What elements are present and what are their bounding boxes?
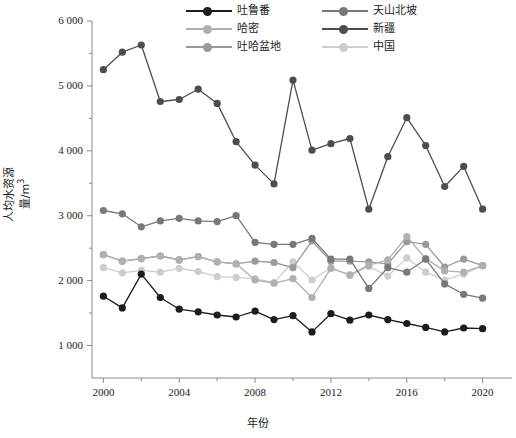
chart-legend: 吐鲁番天山北坡哈密新疆吐哈盆地中国 [186, 2, 512, 56]
data-point [384, 256, 391, 263]
data-point [119, 269, 126, 276]
data-point [479, 206, 486, 213]
data-point [346, 317, 353, 324]
data-point [289, 77, 296, 84]
legend-item-2[interactable]: 哈密 [186, 20, 304, 38]
legend-marker-icon [322, 23, 368, 35]
data-point [327, 265, 334, 272]
y-tick-label: 3 000 [0, 209, 83, 221]
data-point [252, 239, 259, 246]
legend-marker-icon [322, 41, 368, 53]
legend-marker-icon [322, 5, 368, 17]
y-tick-label: 6 000 [0, 14, 83, 26]
data-point [270, 316, 277, 323]
legend-label: 哈密 [237, 23, 259, 35]
data-point [100, 66, 107, 73]
data-point [403, 269, 410, 276]
data-point [460, 291, 467, 298]
data-point [100, 293, 107, 300]
data-point [327, 310, 334, 317]
data-point [327, 256, 334, 263]
data-point [138, 41, 145, 48]
legend-marker-icon [186, 23, 232, 35]
data-point [270, 280, 277, 287]
data-point [138, 255, 145, 262]
data-point [308, 276, 315, 283]
y-tick-label: 2 000 [0, 274, 83, 286]
data-point [195, 268, 202, 275]
data-point [479, 262, 486, 269]
legend-label: 吐哈盆地 [237, 41, 281, 53]
chart-container: 吐鲁番天山北坡哈密新疆吐哈盆地中国 人均水资源量/m3 年份 1 0002 00… [0, 0, 516, 438]
data-point [176, 96, 183, 103]
legend-label: 天山北坡 [373, 5, 417, 17]
data-point [195, 217, 202, 224]
data-point [403, 320, 410, 327]
data-point [308, 294, 315, 301]
data-point [441, 328, 448, 335]
data-point [176, 306, 183, 313]
x-tick-label: 2016 [383, 386, 431, 398]
data-point [327, 140, 334, 147]
data-point [157, 217, 164, 224]
legend-label: 新疆 [373, 23, 395, 35]
data-point [214, 100, 221, 107]
data-point [100, 207, 107, 214]
legend-marker-icon [186, 5, 232, 17]
legend-item-4[interactable]: 吐哈盆地 [186, 38, 304, 56]
data-point [365, 262, 372, 269]
y-tick-label: 5 000 [0, 79, 83, 91]
data-point [100, 264, 107, 271]
data-point [308, 328, 315, 335]
data-point [233, 274, 240, 281]
data-point [479, 325, 486, 332]
data-point [441, 280, 448, 287]
x-tick-label: 2008 [231, 386, 279, 398]
data-point [157, 269, 164, 276]
data-point [214, 273, 221, 280]
data-point [384, 264, 391, 271]
data-point [308, 147, 315, 154]
data-point [384, 273, 391, 280]
legend-item-3[interactable]: 新疆 [322, 20, 440, 38]
data-point [289, 241, 296, 248]
data-point [479, 295, 486, 302]
data-point [308, 235, 315, 242]
data-point [289, 264, 296, 271]
data-point [157, 252, 164, 259]
data-point [346, 135, 353, 142]
data-point [422, 269, 429, 276]
y-tick-label: 1 000 [0, 339, 83, 351]
legend-item-1[interactable]: 天山北坡 [322, 2, 440, 20]
data-point [233, 313, 240, 320]
data-point [460, 256, 467, 263]
data-point [252, 258, 259, 265]
data-point [233, 260, 240, 267]
data-point [270, 241, 277, 248]
y-tick-label: 4 000 [0, 144, 83, 156]
data-point [252, 276, 259, 283]
data-point [214, 258, 221, 265]
data-point [214, 218, 221, 225]
data-point [346, 256, 353, 263]
legend-label: 中国 [373, 41, 395, 53]
data-point [138, 223, 145, 230]
data-point [289, 312, 296, 319]
data-point [119, 304, 126, 311]
data-point [100, 251, 107, 258]
data-point [384, 316, 391, 323]
data-point [176, 215, 183, 222]
data-point [403, 254, 410, 261]
data-point [460, 163, 467, 170]
legend-item-5[interactable]: 中国 [322, 38, 440, 56]
data-point [214, 311, 221, 318]
data-point [346, 271, 353, 278]
legend-item-0[interactable]: 吐鲁番 [186, 2, 304, 20]
data-point [195, 308, 202, 315]
data-point [460, 324, 467, 331]
legend-marker-icon [186, 41, 232, 53]
x-tick-label: 2020 [459, 386, 507, 398]
data-point [233, 138, 240, 145]
series-新疆 [100, 41, 486, 212]
data-point [195, 86, 202, 93]
